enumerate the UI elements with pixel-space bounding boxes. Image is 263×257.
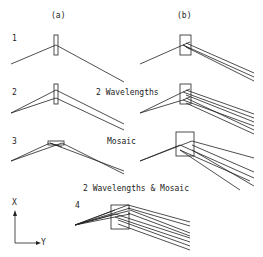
row-number-3: 3: [12, 138, 17, 146]
row1-b-diagram: [140, 35, 254, 81]
row1-a-diagram: [11, 35, 124, 82]
ray-diagram-figure: (a) (b) 1 2 3 4 2 Wavelengths Mosaic 2 W…: [0, 0, 263, 257]
axis-y-label: Y: [41, 239, 46, 247]
caption-2-wavelengths-mosaic: 2 Wavelengths & Mosaic: [83, 185, 189, 193]
axis-indicator: [13, 210, 41, 245]
row4-diagram: [75, 205, 190, 250]
caption-2-wavelengths: 2 Wavelengths: [96, 89, 159, 97]
column-label-a: (a): [51, 12, 65, 20]
ray-diagram-canvas: [0, 0, 263, 257]
axis-x-label: X: [12, 199, 17, 207]
column-label-b: (b): [177, 12, 191, 20]
row-number-2: 2: [12, 89, 17, 97]
caption-mosaic: Mosaic: [107, 138, 136, 146]
row-number-1: 1: [12, 35, 17, 43]
row-number-4: 4: [75, 202, 80, 210]
row3-b-diagram: [140, 132, 254, 190]
